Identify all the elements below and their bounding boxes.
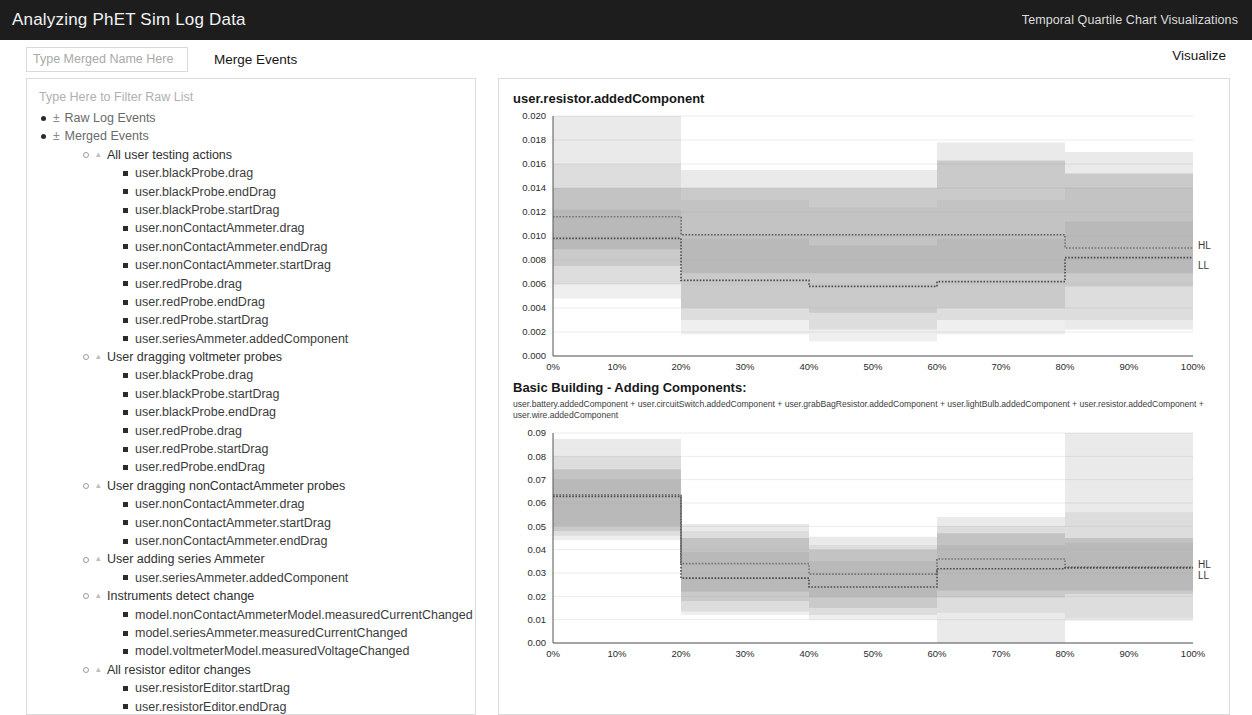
tree-group-item[interactable]: ▴All user testing actions	[37, 146, 469, 164]
tree-leaf-item[interactable]: user.redProbe.startDrag	[37, 311, 469, 329]
x-axis-tick-label: 0%	[546, 361, 560, 372]
y-axis-tick-label: 0.008	[522, 254, 546, 265]
main-content: ±Raw Log Events±Merged Events▴All user t…	[0, 78, 1252, 715]
chevron-collapse-icon[interactable]: ▴	[96, 586, 101, 604]
tree-group-item[interactable]: ▴Instruments detect change	[37, 587, 469, 605]
tree-group-item[interactable]: ▴All resistor editor changes	[37, 661, 469, 679]
tree-leaf-item[interactable]: user.nonContactAmmeter.drag	[37, 495, 469, 513]
bullet-square-icon	[123, 336, 128, 341]
chevron-collapse-icon[interactable]: ▴	[96, 549, 101, 567]
x-axis-tick-label: 90%	[1119, 648, 1139, 659]
bullet-square-icon	[123, 649, 128, 654]
bullet-square-icon	[123, 281, 128, 286]
tree-item-label: user.resistorEditor.endDrag	[135, 698, 286, 715]
merge-events-button[interactable]: Merge Events	[210, 50, 301, 69]
expand-circle-icon[interactable]	[83, 152, 89, 158]
tree-leaf-item[interactable]: user.blackProbe.startDrag	[37, 201, 469, 219]
x-axis-tick-label: 40%	[799, 361, 819, 372]
expand-circle-icon[interactable]	[83, 354, 89, 360]
expand-toggle-icon[interactable]: ±	[53, 109, 60, 127]
expand-circle-icon[interactable]	[83, 593, 89, 599]
y-axis-tick-label: 0.06	[528, 497, 547, 508]
x-axis-tick-label: 0%	[546, 648, 560, 659]
tree-leaf-item[interactable]: model.voltmeterModel.measuredVoltageChan…	[37, 642, 469, 660]
bullet-square-icon	[123, 226, 128, 231]
tree-group-item[interactable]: ±Raw Log Events	[37, 109, 469, 127]
tree-leaf-item[interactable]: user.blackProbe.startDrag	[37, 385, 469, 403]
expand-toggle-icon[interactable]: ±	[53, 127, 60, 145]
bullet-square-icon	[123, 410, 128, 415]
bullet-square-icon	[123, 502, 128, 507]
tree-leaf-item[interactable]: user.nonContactAmmeter.endDrag	[37, 238, 469, 256]
y-axis-tick-label: 0.010	[522, 230, 546, 241]
tree-item-label: Instruments detect change	[107, 587, 254, 605]
bullet-square-icon	[123, 300, 128, 305]
chevron-collapse-icon[interactable]: ▴	[96, 476, 101, 494]
charts-panel: user.resistor.addedComponent 0.0000.0020…	[498, 78, 1230, 715]
x-axis-tick-label: 80%	[1055, 648, 1075, 659]
visualize-button[interactable]: Visualize	[1168, 46, 1230, 65]
y-axis-tick-label: 0.014	[522, 182, 546, 193]
merged-name-input[interactable]	[26, 47, 188, 72]
series-label-LL: LL	[1198, 570, 1210, 581]
tree-leaf-item[interactable]: user.redProbe.drag	[37, 422, 469, 440]
bullet-square-icon	[123, 539, 128, 544]
chevron-collapse-icon[interactable]: ▴	[96, 347, 101, 365]
bullet-square-icon	[123, 631, 128, 636]
y-axis-tick-label: 0.04	[528, 544, 547, 555]
tree-item-label: user.nonContactAmmeter.startDrag	[135, 514, 331, 532]
tree-leaf-item[interactable]: model.nonContactAmmeterModel.measuredCur…	[37, 606, 469, 624]
tree-leaf-item[interactable]: user.seriesAmmeter.addedComponent	[37, 569, 469, 587]
tree-leaf-item[interactable]: user.nonContactAmmeter.endDrag	[37, 532, 469, 550]
tree-item-label: model.voltmeterModel.measuredVoltageChan…	[135, 642, 409, 660]
tree-leaf-item[interactable]: user.nonContactAmmeter.startDrag	[37, 256, 469, 274]
chart-block-2: Basic Building - Adding Components: user…	[509, 380, 1215, 665]
expand-circle-icon[interactable]	[83, 483, 89, 489]
tree-item-label: Merged Events	[65, 127, 149, 145]
tree-leaf-item[interactable]: user.redProbe.endDrag	[37, 458, 469, 476]
tree-group-item[interactable]: ▴User dragging nonContactAmmeter probes	[37, 477, 469, 495]
tree-leaf-item[interactable]: user.redProbe.drag	[37, 275, 469, 293]
app-header-subtitle: Temporal Quartile Chart Visualizations	[1022, 13, 1238, 27]
tree-leaf-item[interactable]: user.seriesAmmeter.addedComponent	[37, 330, 469, 348]
tree-leaf-item[interactable]: user.blackProbe.drag	[37, 366, 469, 384]
tree-item-label: user.resistorEditor.startDrag	[135, 679, 290, 697]
tree-leaf-item[interactable]: model.seriesAmmeter.measuredCurrentChang…	[37, 624, 469, 642]
bullet-square-icon	[123, 208, 128, 213]
tree-leaf-item[interactable]: user.nonContactAmmeter.startDrag	[37, 514, 469, 532]
tree-group-item[interactable]: ▴User dragging voltmeter probes	[37, 348, 469, 366]
app-root: Analyzing PhET Sim Log Data Temporal Qua…	[0, 0, 1252, 715]
tree-item-label: user.redProbe.drag	[135, 422, 242, 440]
tree-group-item[interactable]: ±Merged Events	[37, 127, 469, 145]
chevron-collapse-icon[interactable]: ▴	[96, 660, 101, 678]
tree-group-item[interactable]: ▴User adding series Ammeter	[37, 550, 469, 568]
expand-circle-icon[interactable]	[83, 667, 89, 673]
y-axis-tick-label: 0.000	[522, 350, 546, 361]
bullet-square-icon	[123, 704, 128, 709]
expand-circle-icon[interactable]	[83, 557, 89, 563]
tree-leaf-item[interactable]: user.nonContactAmmeter.drag	[37, 219, 469, 237]
tree-item-label: All user testing actions	[107, 146, 232, 164]
bullet-dot-icon	[41, 134, 46, 139]
chevron-collapse-icon[interactable]: ▴	[96, 145, 101, 163]
x-axis-tick-label: 60%	[927, 648, 947, 659]
chart-2-plot: 0.000.010.020.030.040.050.060.070.080.09…	[509, 427, 1215, 665]
app-header: Analyzing PhET Sim Log Data Temporal Qua…	[0, 0, 1252, 40]
chart-1-title: user.resistor.addedComponent	[513, 91, 1215, 106]
filter-raw-list-input[interactable]	[37, 89, 452, 107]
tree-leaf-item[interactable]: user.blackProbe.drag	[37, 164, 469, 182]
tree-leaf-item[interactable]: user.redProbe.endDrag	[37, 293, 469, 311]
tree-leaf-item[interactable]: user.resistorEditor.startDrag	[37, 679, 469, 697]
tree-leaf-item[interactable]: user.blackProbe.endDrag	[37, 183, 469, 201]
tree-item-label: user.nonContactAmmeter.endDrag	[135, 238, 327, 256]
x-axis-tick-label: 90%	[1119, 361, 1139, 372]
chart-block-1: user.resistor.addedComponent 0.0000.0020…	[509, 91, 1215, 378]
tree-item-label: user.redProbe.endDrag	[135, 293, 265, 311]
tree-item-label: user.blackProbe.startDrag	[135, 201, 280, 219]
bullet-square-icon	[123, 373, 128, 378]
tree-leaf-item[interactable]: user.resistorEditor.endDrag	[37, 698, 469, 715]
tree-item-label: user.nonContactAmmeter.drag	[135, 219, 305, 237]
bullet-square-icon	[123, 428, 128, 433]
tree-leaf-item[interactable]: user.blackProbe.endDrag	[37, 403, 469, 421]
tree-leaf-item[interactable]: user.redProbe.startDrag	[37, 440, 469, 458]
